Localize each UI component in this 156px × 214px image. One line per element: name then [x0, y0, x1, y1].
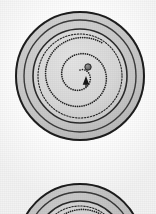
upper-disc	[15, 11, 145, 141]
disc-illustration	[0, 0, 156, 214]
upper-disc-arrow-stem	[85, 84, 86, 87]
figure-plate	[0, 0, 156, 214]
upper-disc-center-boss	[85, 64, 91, 70]
